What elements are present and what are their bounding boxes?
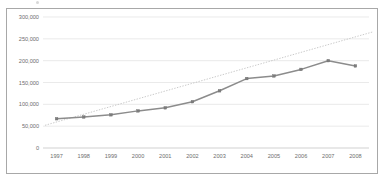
- y-tick-label: 250,000: [19, 36, 39, 42]
- x-tick-label: 2001: [159, 153, 171, 159]
- x-tick-label: 2005: [268, 153, 280, 159]
- data-point-marker: [55, 117, 58, 120]
- x-tick-label: 1997: [50, 153, 62, 159]
- x-tick-label: 2002: [186, 153, 198, 159]
- x-tick-label: 2003: [213, 153, 225, 159]
- data-series-line: [57, 61, 356, 119]
- y-tick-label: 0: [36, 145, 39, 151]
- x-tick-label: 1998: [78, 153, 90, 159]
- data-point-marker: [110, 114, 113, 117]
- y-tick-label: 300,000: [19, 14, 39, 20]
- data-point-marker: [354, 65, 357, 68]
- data-point-markers: [55, 59, 356, 120]
- data-point-marker: [300, 68, 303, 71]
- x-tick-label: 2008: [349, 153, 361, 159]
- plot-area: 050,000100,000150,000200,000250,000300,0…: [7, 9, 377, 173]
- data-point-marker: [137, 110, 140, 113]
- data-point-marker: [273, 75, 276, 78]
- scan-speck-artifact: [36, 1, 39, 4]
- data-point-marker: [191, 100, 194, 103]
- y-tick-label: 200,000: [19, 58, 39, 64]
- data-point-marker: [218, 89, 221, 92]
- trendline: [45, 32, 373, 125]
- x-tick-label: 1999: [105, 153, 117, 159]
- data-point-marker: [327, 59, 330, 62]
- data-point-marker: [164, 107, 167, 110]
- data-point-marker: [82, 116, 85, 119]
- x-tick-label: 2006: [295, 153, 307, 159]
- y-tick-label: 150,000: [19, 80, 39, 86]
- x-tick-label: 2000: [132, 153, 144, 159]
- gridlines: [43, 17, 369, 148]
- y-tick-label: 100,000: [19, 101, 39, 107]
- x-tick-label: 2007: [322, 153, 334, 159]
- x-tick-label: 2004: [241, 153, 253, 159]
- y-tick-label: 50,000: [22, 123, 39, 129]
- data-point-marker: [245, 77, 248, 80]
- x-axis-tick-labels: 1997199819992000200120022003200420052006…: [50, 153, 361, 159]
- chart-frame: 050,000100,000150,000200,000250,000300,0…: [6, 8, 378, 174]
- y-axis-tick-labels: 050,000100,000150,000200,000250,000300,0…: [19, 14, 39, 151]
- line-chart: 050,000100,000150,000200,000250,000300,0…: [7, 9, 377, 173]
